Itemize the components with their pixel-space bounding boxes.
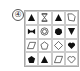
filled-heart-icon bbox=[67, 41, 76, 50]
grid-cell bbox=[38, 25, 51, 39]
grid-cell bbox=[38, 11, 51, 25]
grid-cell bbox=[38, 52, 51, 66]
pentagon-outline-icon bbox=[40, 41, 49, 50]
filled-inverted-triangle-icon bbox=[67, 27, 76, 36]
grid-cell bbox=[25, 25, 38, 39]
filled-heptagon-icon bbox=[54, 27, 63, 36]
grid-cell bbox=[65, 52, 78, 66]
heart-outline-icon bbox=[67, 55, 76, 64]
grid-cell bbox=[52, 39, 65, 53]
grid-cell bbox=[52, 11, 65, 25]
shape-grid bbox=[24, 10, 79, 67]
bowtie-filled-icon bbox=[27, 27, 36, 36]
filled-triangle-icon bbox=[27, 13, 36, 22]
filled-triangle-icon bbox=[40, 55, 49, 64]
hourglass-outline-icon bbox=[40, 13, 49, 22]
grid-cell bbox=[65, 39, 78, 53]
filled-pentagon-icon bbox=[27, 55, 36, 64]
grid-cell bbox=[52, 52, 65, 66]
filled-triangle-icon bbox=[54, 13, 63, 22]
grid-cell bbox=[65, 25, 78, 39]
concentric-circles-icon bbox=[40, 27, 49, 36]
grid-cell bbox=[25, 11, 38, 25]
grid-cell bbox=[52, 25, 65, 39]
grid-cell bbox=[65, 11, 78, 25]
question-number-label: ④ bbox=[12, 9, 24, 21]
parallelogram-outline-icon bbox=[27, 41, 36, 50]
grid-cell bbox=[25, 39, 38, 53]
grid-cell bbox=[25, 52, 38, 66]
parallelogram-outline-icon bbox=[54, 55, 63, 64]
diamond-outline-icon bbox=[54, 41, 63, 50]
grid-cell bbox=[38, 39, 51, 53]
folded-square-outline-icon bbox=[67, 13, 76, 22]
